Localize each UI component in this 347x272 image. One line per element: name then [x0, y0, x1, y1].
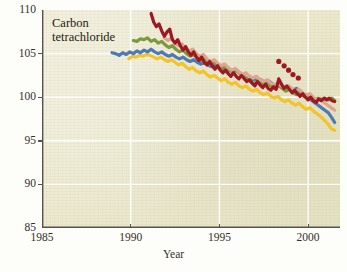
y-tick-mark — [38, 140, 42, 141]
y-tick-label: 105 — [19, 47, 36, 59]
x-tick-label: 2000 — [293, 231, 323, 243]
y-tick-mark — [38, 97, 42, 98]
x-tick-label: 1990 — [116, 231, 146, 243]
x-tick-label: 1985 — [27, 231, 57, 243]
x-tick-label: 1995 — [204, 231, 234, 243]
y-tick-label: 95 — [25, 134, 37, 146]
y-tick-mark — [38, 184, 42, 185]
x-tick-mark — [219, 224, 220, 228]
y-tick-label: 100 — [19, 90, 36, 102]
x-tick-mark — [308, 224, 309, 228]
series-station-blue — [112, 49, 335, 122]
series-station-darkred-dots — [276, 59, 301, 81]
x-axis-title: Year — [0, 248, 347, 260]
figure-container: Carbon tetrachloride 859095100105110 198… — [0, 0, 347, 272]
y-tick-label: 110 — [19, 3, 36, 15]
x-tick-mark — [130, 224, 131, 228]
y-tick-mark — [38, 53, 42, 54]
y-tick-label: 90 — [25, 177, 37, 189]
series-annotation-carbon-tetrachloride: Carbon tetrachloride — [52, 16, 138, 44]
